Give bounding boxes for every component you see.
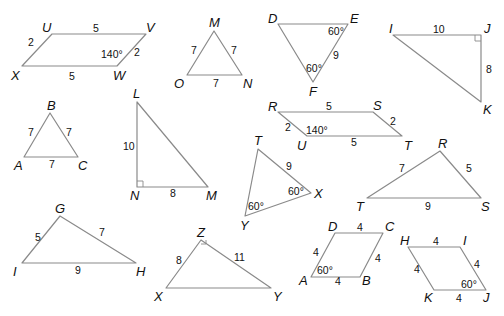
vertex-label: F — [309, 84, 318, 99]
shape-triangle-MNO: MON777 — [174, 15, 253, 91]
parallelogram-outline — [278, 112, 402, 136]
right-angle-mark — [137, 181, 143, 187]
side-length-label: 7 — [28, 126, 34, 138]
vertex-label: H — [136, 264, 146, 279]
vertex-label: T — [254, 133, 263, 148]
side-length-label: 4 — [313, 246, 319, 258]
side-length-label: 7 — [213, 77, 219, 89]
side-length-label: 8 — [170, 187, 176, 199]
triangle-outline — [137, 102, 208, 187]
side-length-label: 8 — [176, 254, 182, 266]
shape-triangle-GHI: GIH579 — [13, 201, 146, 279]
vertex-label: W — [113, 68, 127, 83]
side-length-label: 5 — [69, 70, 75, 82]
shapes-svg: UVWX2525140°MON777DEF960°60°IJK108BAC777… — [0, 0, 504, 316]
side-length-label: 4 — [375, 252, 381, 264]
angle-label: 140° — [101, 48, 123, 60]
side-length-label: 5 — [35, 231, 41, 243]
shape-parallelogram-UVWX: UVWX2525140° — [10, 20, 156, 83]
side-length-label: 4 — [335, 275, 341, 287]
shape-parallelogram-RSTU: RSTU5225140° — [268, 98, 413, 153]
vertex-label: X — [313, 186, 324, 201]
shape-triangle-DEF: DEF960°60° — [268, 11, 359, 99]
side-length-label: 8 — [486, 63, 492, 75]
side-length-label: 4 — [456, 292, 462, 304]
vertex-label: M — [206, 188, 217, 203]
side-length-label: 5 — [93, 22, 99, 34]
vertex-label: O — [174, 76, 184, 91]
side-length-label: 4 — [357, 221, 363, 233]
side-length-label: 4 — [414, 263, 420, 275]
vertex-label: R — [438, 136, 447, 151]
vertex-label: N — [130, 188, 140, 203]
vertex-label: N — [243, 76, 253, 91]
side-length-label: 7 — [231, 44, 237, 56]
shape-triangle-TXY: TXY960°60° — [240, 133, 324, 233]
side-length-label: 2 — [390, 115, 396, 127]
triangle-outline — [393, 35, 481, 102]
vertex-label: L — [133, 86, 140, 101]
vertex-label: M — [209, 15, 220, 30]
right-angle-mark — [475, 35, 481, 41]
vertex-label: E — [350, 11, 359, 26]
side-length-label: 9 — [333, 49, 339, 61]
vertex-label: B — [362, 273, 371, 288]
side-length-label: 7 — [66, 126, 72, 138]
angle-label: 60° — [461, 278, 477, 290]
vertex-label: R — [268, 99, 277, 114]
shape-triangle-XYZ: ZXY811 — [153, 225, 283, 304]
vertex-label: X — [153, 289, 164, 304]
vertex-label: J — [482, 290, 490, 305]
angle-label: 60° — [288, 185, 304, 197]
shape-rhombus-ABCD: DCAB444460° — [298, 219, 395, 288]
angle-label: 60° — [317, 264, 333, 276]
side-length-label: 7 — [191, 44, 197, 56]
vertex-label: A — [298, 273, 308, 288]
side-length-label: 2 — [134, 46, 140, 58]
vertex-label: K — [483, 102, 493, 117]
triangle-outline — [367, 151, 481, 198]
vertex-label: Z — [196, 225, 206, 240]
side-length-label: 2 — [285, 121, 291, 133]
side-length-label: 2 — [28, 36, 34, 48]
vertex-label: I — [389, 21, 393, 36]
vertex-label: C — [385, 219, 395, 234]
vertex-label: Y — [240, 218, 250, 233]
side-length-label: 5 — [326, 100, 332, 112]
side-length-label: 4 — [474, 258, 480, 270]
side-length-label: 10 — [123, 140, 135, 152]
vertex-label: D — [328, 219, 337, 234]
vertex-label: C — [78, 158, 88, 173]
side-length-label: 4 — [433, 235, 439, 247]
side-length-label: 10 — [433, 23, 445, 35]
parallelogram-outline — [22, 34, 146, 66]
side-length-label: 9 — [425, 200, 431, 212]
vertex-label: I — [13, 264, 17, 279]
vertex-label: T — [404, 138, 413, 153]
vertex-label: S — [373, 98, 382, 113]
vertex-label: I — [463, 233, 467, 248]
vertex-label: K — [424, 290, 434, 305]
shape-rhombus-HIJK: HIKJ444460° — [400, 233, 490, 305]
shape-triangle-LMN: LNM108 — [123, 86, 217, 203]
side-length-label: 5 — [351, 136, 357, 148]
vertex-label: V — [146, 20, 156, 35]
vertex-label: A — [13, 158, 23, 173]
side-length-label: 7 — [399, 162, 405, 174]
side-length-label: 9 — [75, 264, 81, 276]
angle-label: 60° — [328, 25, 344, 37]
vertex-label: U — [42, 20, 52, 35]
angle-label: 60° — [306, 62, 322, 74]
geometry-figure: UVWX2525140°MON777DEF960°60°IJK108BAC777… — [0, 0, 504, 316]
shape-triangle-ABC: BAC777 — [13, 98, 88, 173]
vertex-label: D — [268, 11, 277, 26]
vertex-label: H — [400, 233, 410, 248]
shape-triangle-IJK: IJK108 — [389, 21, 493, 117]
vertex-label: S — [481, 199, 490, 214]
angle-label: 140° — [306, 124, 328, 136]
side-length-label: 5 — [466, 162, 472, 174]
vertex-label: Y — [273, 289, 283, 304]
vertex-label: T — [356, 199, 365, 214]
side-length-label: 7 — [99, 226, 105, 238]
vertex-label: J — [483, 21, 491, 36]
